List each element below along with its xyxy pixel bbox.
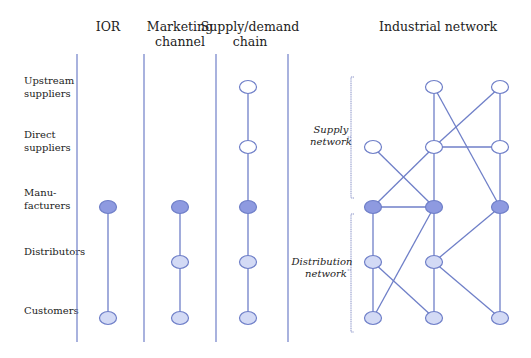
industrial-edge-u3-d2 xyxy=(434,87,500,147)
industrial-node-c3 xyxy=(492,312,509,325)
row-label-direct-1: Direct xyxy=(24,129,56,140)
row-label-upstream-2: suppliers xyxy=(24,88,71,99)
nodes-layer xyxy=(100,81,509,325)
row-label-customers: Customers xyxy=(24,305,79,316)
industrial-node-c1 xyxy=(365,312,382,325)
header-supply-demand-line2: chain xyxy=(233,34,268,49)
industrial-node-u2 xyxy=(426,81,443,94)
marketing-node-mfg xyxy=(172,201,189,214)
industrial-node-m3 xyxy=(492,201,509,214)
header-industrial: Industrial network xyxy=(379,19,498,34)
supply_demand-node-mfg xyxy=(240,201,257,214)
industrial-edge-t2-c3 xyxy=(434,262,500,318)
supply-network-label-1: Supply xyxy=(314,124,349,135)
row-label-direct-2: suppliers xyxy=(24,142,71,153)
industrial-node-d2 xyxy=(426,141,443,154)
supply_demand-node-cust xyxy=(240,312,257,325)
ior-node-cust xyxy=(100,312,117,325)
edges-layer xyxy=(108,87,500,318)
industrial-node-c2 xyxy=(426,312,443,325)
row-label-distributors: Distributors xyxy=(24,246,85,257)
marketing-node-dist xyxy=(172,256,189,269)
industrial-node-t2 xyxy=(426,256,443,269)
supply_demand-node-upstream xyxy=(240,81,257,94)
row-label-mfg-2: facturers xyxy=(24,200,70,211)
distribution-network-label-2: network xyxy=(305,268,347,279)
industrial-node-d1 xyxy=(365,141,382,154)
header-supply-demand-line1: Supply/demand xyxy=(201,19,300,34)
industrial-edge-m3-t2 xyxy=(434,207,500,262)
diagram-canvas: IOR Marketing channel Supply/demand chai… xyxy=(0,0,531,358)
header-ior: IOR xyxy=(96,19,121,34)
industrial-node-d3 xyxy=(492,141,509,154)
distribution-network-label-1: Distribution xyxy=(291,256,353,267)
industrial-node-m2 xyxy=(426,201,443,214)
channel-structure-diagram: IOR Marketing channel Supply/demand chai… xyxy=(0,0,531,358)
industrial-node-t1 xyxy=(365,256,382,269)
supply_demand-node-direct xyxy=(240,141,257,154)
industrial-node-u3 xyxy=(492,81,509,94)
industrial-edge-t1-c2 xyxy=(373,262,434,318)
supply-network-label-2: network xyxy=(310,136,352,147)
distribution-network-bracket xyxy=(347,214,354,332)
ior-node-mfg xyxy=(100,201,117,214)
row-label-upstream-1: Upstream xyxy=(24,75,75,86)
industrial-node-m1 xyxy=(365,201,382,214)
supply_demand-node-dist xyxy=(240,256,257,269)
marketing-node-cust xyxy=(172,312,189,325)
header-marketing-line2: channel xyxy=(155,34,205,49)
row-label-mfg-1: Manu- xyxy=(24,187,56,198)
industrial-edge-m2-c1 xyxy=(373,207,434,318)
